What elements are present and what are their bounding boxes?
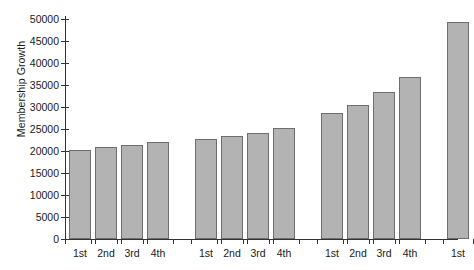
- x-tick-mark: [121, 239, 122, 244]
- bar: [247, 133, 269, 239]
- bar: [221, 136, 243, 239]
- bar: [321, 113, 343, 239]
- y-tick-label: 5000: [36, 211, 59, 223]
- x-tick-label: 4th: [268, 247, 300, 259]
- x-tick-mark: [373, 239, 374, 244]
- x-tick-mark: [143, 239, 144, 244]
- bar: [195, 139, 217, 239]
- y-tick-mark: [61, 107, 69, 108]
- x-tick-mark: [425, 239, 426, 244]
- x-tick-mark: [247, 239, 248, 244]
- y-tick-label: 35000: [30, 79, 59, 91]
- x-tick-mark: [443, 239, 444, 244]
- y-tick-mark: [61, 195, 69, 196]
- y-tick-label: 30000: [30, 101, 59, 113]
- y-tick-mark: [61, 63, 69, 64]
- y-tick-label: 40000: [30, 57, 59, 69]
- x-tick-mark: [217, 239, 218, 244]
- x-tick-mark: [95, 239, 96, 244]
- plot-area: 0500010000150002000025000300003500040000…: [65, 19, 458, 239]
- x-tick-mark: [299, 239, 300, 244]
- y-tick-label: 10000: [30, 189, 59, 201]
- x-tick-label: 1st: [442, 247, 474, 259]
- x-tick-mark: [343, 239, 344, 244]
- y-tick-label: 50000: [30, 13, 59, 25]
- bar: [399, 77, 421, 239]
- x-tick-mark: [91, 239, 92, 244]
- bar: [95, 147, 117, 239]
- y-tick-mark: [61, 217, 69, 218]
- x-tick-label: 4th: [394, 247, 426, 259]
- x-tick-label: 4th: [142, 247, 174, 259]
- x-tick-mark: [369, 239, 370, 244]
- x-tick-mark: [147, 239, 148, 244]
- y-tick-label: 0: [53, 233, 59, 245]
- y-tick-mark: [61, 85, 69, 86]
- y-tick-label: 45000: [30, 35, 59, 47]
- x-tick-mark: [65, 239, 66, 244]
- y-tick-mark: [61, 129, 69, 130]
- bar: [69, 150, 91, 239]
- bar: [347, 105, 369, 239]
- y-tick-label: 15000: [30, 167, 59, 179]
- x-tick-mark: [317, 239, 318, 244]
- x-tick-mark: [269, 239, 270, 244]
- y-tick-label: 25000: [30, 123, 59, 135]
- y-axis-line: [65, 16, 66, 239]
- x-tick-mark: [273, 239, 274, 244]
- x-tick-mark: [243, 239, 244, 244]
- x-tick-mark: [117, 239, 118, 244]
- y-axis-title: Membership Growth: [15, 24, 27, 154]
- bar: [147, 142, 169, 239]
- x-tick-mark: [191, 239, 192, 244]
- bar: [373, 92, 395, 239]
- bar: [121, 145, 143, 239]
- x-tick-mark: [173, 239, 174, 244]
- x-tick-mark: [347, 239, 348, 244]
- y-tick-mark: [61, 151, 69, 152]
- y-tick-label: 20000: [30, 145, 59, 157]
- y-tick-mark: [61, 173, 69, 174]
- bar: [447, 22, 469, 239]
- bar: [273, 128, 295, 239]
- x-tick-mark: [395, 239, 396, 244]
- x-tick-mark: [399, 239, 400, 244]
- y-tick-mark: [61, 41, 69, 42]
- x-tick-mark: [221, 239, 222, 244]
- y-tick-mark: [61, 19, 69, 20]
